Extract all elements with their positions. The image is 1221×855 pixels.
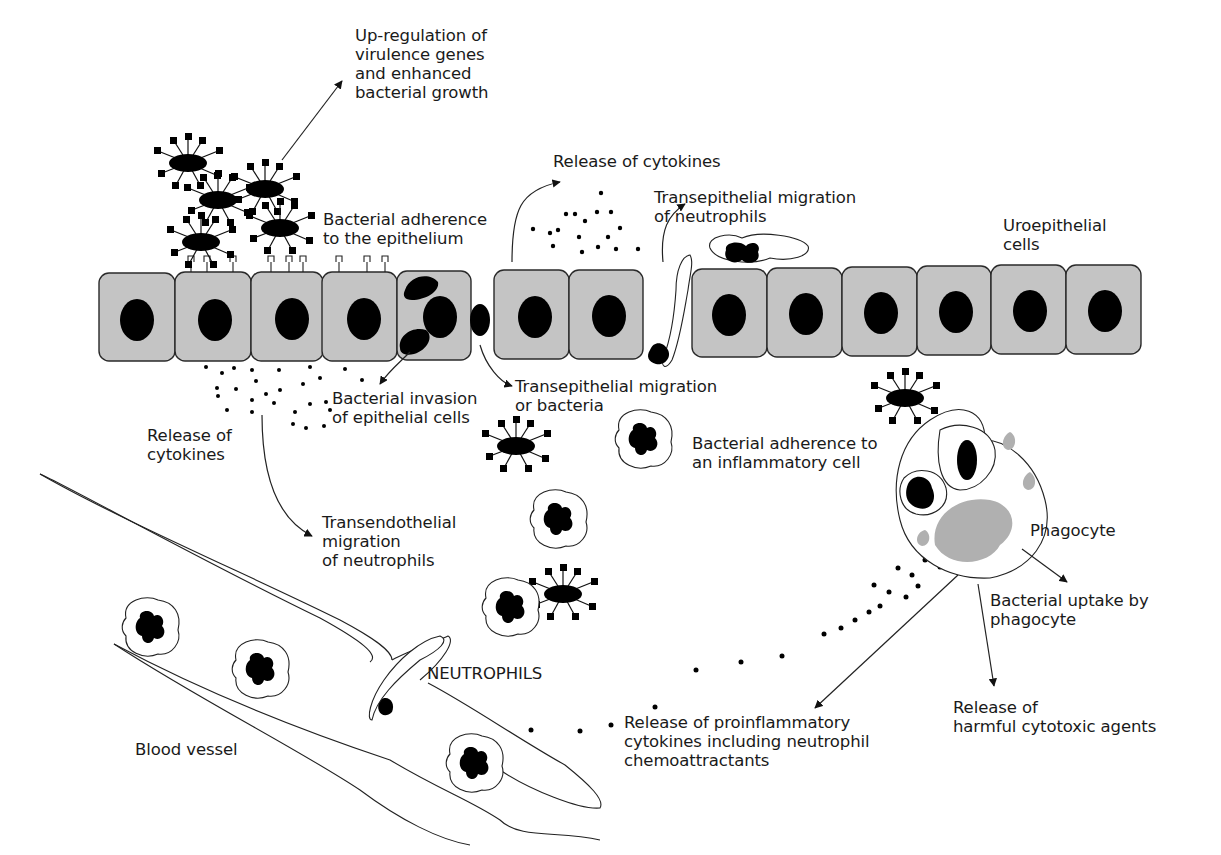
label-release-cytokines-left: Release of cytokines xyxy=(147,426,232,464)
receptors xyxy=(188,256,388,272)
label-transendothelial: Transendothelial migration of neutrophil… xyxy=(322,513,456,570)
label-bacterial-invasion: Bacterial invasion of epithelial cells xyxy=(332,389,477,427)
label-adherence-inflammatory: Bacterial adherence to an inflammatory c… xyxy=(692,434,878,472)
free-bacterium xyxy=(482,416,551,472)
vessel-neutrophil xyxy=(232,640,289,698)
label-adherence-epithelium: Bacterial adherence to the epithelium xyxy=(323,210,487,248)
label-neutrophils: NEUTROPHILS xyxy=(427,664,542,683)
phagocyte-cell xyxy=(896,410,1047,579)
label-blood-vessel: Blood vessel xyxy=(135,740,237,759)
bacteria-cluster xyxy=(154,133,315,268)
label-uroepithelial-cells: Uroepithelial cells xyxy=(1003,216,1106,254)
label-proinflammatory: Release of proinflammatory cytokines inc… xyxy=(624,713,870,770)
free-bacterium xyxy=(871,368,940,424)
label-phagocyte: Phagocyte xyxy=(1030,521,1116,540)
vessel-neutrophil xyxy=(122,598,179,656)
label-transepithelial-neutrophils: Transepithelial migration of neutrophils xyxy=(654,188,856,226)
vessel-neutrophil xyxy=(446,734,503,792)
blood-vessel xyxy=(40,474,601,845)
chemoattractant-dots xyxy=(529,558,943,734)
label-upregulation: Up-regulation of virulence genes and enh… xyxy=(355,26,488,102)
epithelium xyxy=(99,265,1141,361)
label-transepithelial-bacteria: Transepithelial migration or bacteria xyxy=(515,377,717,415)
label-cytotoxic: Release of harmful cytotoxic agents xyxy=(953,698,1156,736)
tissue-neutrophil xyxy=(530,490,587,548)
tissue-neutrophil xyxy=(615,410,672,468)
label-release-cytokines-top: Release of cytokines xyxy=(553,152,721,171)
tissue-neutrophil xyxy=(482,578,539,636)
cytokine-dots-top xyxy=(531,191,640,254)
free-bacterium xyxy=(529,564,598,620)
label-bacterial-uptake: Bacterial uptake by phagocyte xyxy=(990,591,1149,629)
